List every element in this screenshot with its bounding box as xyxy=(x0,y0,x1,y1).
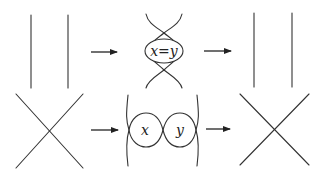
crossing-right xyxy=(240,94,309,165)
two-loops-between-strands: x y xyxy=(127,95,199,166)
crossing-left xyxy=(16,94,83,168)
top-row: x=y xyxy=(31,13,292,88)
two-vertical-strands-left xyxy=(31,15,68,88)
loop-right-label: y xyxy=(175,122,185,138)
double-twist-with-box: x=y xyxy=(145,14,183,88)
box-label: x=y xyxy=(150,43,179,59)
bottom-row: x y xyxy=(16,94,309,168)
diagram-canvas: x=y xyxy=(0,0,328,177)
two-vertical-strands-right xyxy=(254,13,292,87)
diagram-svg: x=y xyxy=(0,0,328,177)
loop-left-label: x xyxy=(141,122,149,138)
